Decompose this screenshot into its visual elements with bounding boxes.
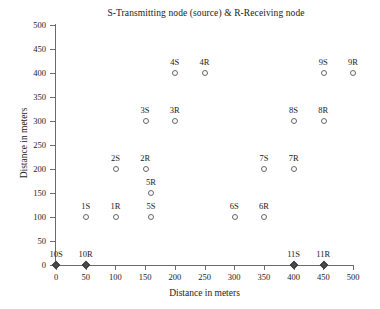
y-tick-label-text: 50 — [18, 237, 46, 246]
data-point-label: 10S — [42, 250, 70, 259]
x-tick-label-text: 150 — [130, 272, 160, 282]
data-point-label: 9R — [339, 58, 367, 67]
y-tick-mark — [50, 97, 55, 98]
y-tick-mark — [50, 73, 55, 74]
x-tick-label-text: 250 — [190, 272, 220, 282]
x-tick-label: 50 — [71, 272, 101, 282]
x-tick-mark — [205, 266, 206, 270]
x-tick-label-text: 450 — [308, 272, 338, 282]
y-tick-mark — [50, 241, 55, 242]
data-point-label: 4S — [161, 58, 189, 67]
data-point-label: 7S — [250, 154, 278, 163]
data-point-label: 11R — [309, 250, 337, 259]
y-tick-mark — [50, 169, 55, 170]
x-tick-mark — [234, 266, 235, 270]
y-tick-mark — [50, 193, 55, 194]
y-tick-label: 450 — [16, 45, 46, 54]
data-point-label: 10R — [72, 250, 100, 259]
x-tick-label-text: 350 — [249, 272, 279, 282]
data-point-label: 1R — [101, 202, 129, 211]
data-point-label: 2S — [101, 154, 129, 163]
data-point-label: 5S — [137, 202, 165, 211]
open-circle-marker-icon — [143, 166, 149, 172]
y-axis-title: Distance in meters — [19, 63, 29, 223]
data-point-label: 5R — [137, 178, 165, 187]
data-point-label: 11S — [280, 250, 308, 259]
data-point-label: 3R — [161, 106, 189, 115]
x-tick-label-text: 0 — [41, 272, 71, 282]
x-tick-label-text: 50 — [71, 272, 101, 282]
y-tick-label-text: 450 — [18, 45, 46, 54]
x-tick-label: 300 — [219, 272, 249, 282]
x-tick-label: 450 — [308, 272, 338, 282]
data-point-label: 9S — [309, 58, 337, 67]
x-tick-mark — [115, 266, 116, 270]
x-tick-label: 200 — [160, 272, 190, 282]
x-tick-label: 250 — [190, 272, 220, 282]
y-tick-mark — [50, 121, 55, 122]
data-point-label: 6R — [250, 202, 278, 211]
x-tick-label-text: 300 — [219, 272, 249, 282]
y-tick-mark — [50, 49, 55, 50]
data-point-label: 4R — [191, 58, 219, 67]
x-tick-label: 400 — [279, 272, 309, 282]
data-point-label: 3S — [131, 106, 159, 115]
y-tick-mark — [50, 145, 55, 146]
y-tick-mark — [50, 25, 55, 26]
data-point-label: 8S — [280, 106, 308, 115]
open-circle-marker-icon — [143, 118, 149, 124]
open-circle-marker-icon — [350, 70, 356, 76]
y-tick-label: 0 — [16, 261, 46, 270]
x-tick-mark — [264, 266, 265, 270]
x-tick-mark — [145, 266, 146, 270]
x-tick-mark — [353, 266, 354, 270]
data-point-label: 6S — [220, 202, 248, 211]
chart-title: S-Transmitting node (source) & R-Receivi… — [56, 8, 356, 18]
x-tick-label: 0 — [41, 272, 71, 282]
y-tick-label: 500 — [16, 21, 46, 30]
x-tick-label-text: 500 — [338, 272, 368, 282]
x-tick-label-text: 400 — [279, 272, 309, 282]
x-tick-label-text: 100 — [100, 272, 130, 282]
x-axis-title: Distance in meters — [56, 288, 353, 298]
data-point-label: 7R — [280, 154, 308, 163]
x-tick-label: 350 — [249, 272, 279, 282]
data-point-label: 1S — [72, 202, 100, 211]
data-point-label: 8R — [309, 106, 337, 115]
data-point-label: 2R — [131, 154, 159, 163]
y-tick-label-text: 0 — [18, 261, 46, 270]
x-tick-mark — [175, 266, 176, 270]
y-tick-label: 50 — [16, 237, 46, 246]
x-tick-label-text: 200 — [160, 272, 190, 282]
x-tick-label: 100 — [100, 272, 130, 282]
x-tick-label: 500 — [338, 272, 368, 282]
y-tick-label-text: 500 — [18, 21, 46, 30]
y-tick-mark — [50, 217, 55, 218]
x-tick-label: 150 — [130, 272, 160, 282]
scatter-plot-figure: S-Transmitting node (source) & R-Receivi… — [0, 0, 380, 309]
